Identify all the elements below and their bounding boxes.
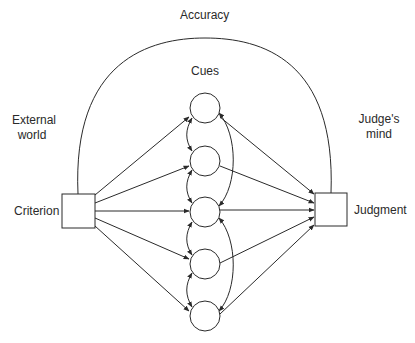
judges-mind-line1: Judge's bbox=[356, 112, 402, 127]
edge-cue1-judgment bbox=[220, 117, 314, 194]
judges-mind-line2: mind bbox=[356, 127, 402, 142]
cue-circle-1 bbox=[190, 93, 220, 123]
arc-cue1-cue2 bbox=[187, 118, 192, 151]
edge-criterion-cue2 bbox=[95, 166, 189, 203]
arc-cue3-cue4 bbox=[187, 222, 192, 255]
edge-criterion-cue1 bbox=[95, 117, 189, 195]
edge-cue2-judgment bbox=[220, 166, 314, 203]
cue-circle-4 bbox=[190, 249, 220, 279]
edge-cue4-judgment bbox=[220, 217, 314, 263]
arc-cue4-cue5 bbox=[187, 273, 192, 307]
cue-circle-5 bbox=[190, 301, 220, 331]
cue-circle-3 bbox=[190, 197, 220, 227]
arc-cue3-cue5 bbox=[219, 218, 233, 311]
judgment-box bbox=[315, 193, 347, 226]
criterion-box bbox=[62, 194, 95, 228]
judges-mind-label: Judge's mind bbox=[356, 112, 402, 142]
cues-label: Cues bbox=[191, 64, 219, 79]
arc-cue2-cue3 bbox=[187, 170, 192, 203]
criterion-label: Criterion bbox=[14, 204, 59, 219]
external-world-line1: External bbox=[12, 113, 52, 128]
external-world-label: External world bbox=[12, 113, 52, 143]
lens-model-diagram bbox=[0, 0, 415, 343]
cue-circle-2 bbox=[190, 146, 220, 176]
external-world-line2: world bbox=[12, 128, 52, 143]
arc-cue1-cue3 bbox=[219, 113, 233, 206]
edge-cue5-judgment bbox=[220, 225, 314, 314]
judgment-label: Judgment bbox=[354, 203, 407, 218]
accuracy-label: Accuracy bbox=[180, 8, 229, 23]
